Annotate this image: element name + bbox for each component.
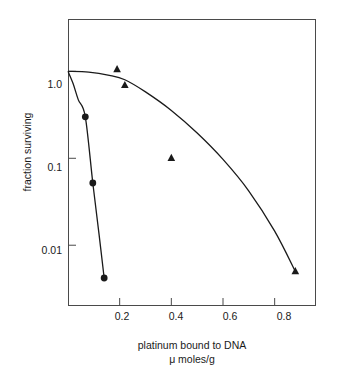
data-series-group [68,65,299,281]
data-point-circles-1 [82,113,89,120]
axis-ticks-group [68,71,275,306]
series-curve-triangles [68,71,295,271]
series-curve-circles [68,71,104,278]
chart-canvas [0,0,353,383]
data-point-triangles-1 [113,65,121,72]
data-point-circles-2 [89,180,96,187]
chart-figure: 1.0 0.1 0.01 0.2 0.4 0.6 0.8 fraction su… [0,0,353,383]
data-point-triangles-3 [168,154,176,161]
data-point-triangles-4 [292,267,300,274]
data-point-triangles-2 [121,81,129,88]
data-point-circles-3 [101,275,108,282]
